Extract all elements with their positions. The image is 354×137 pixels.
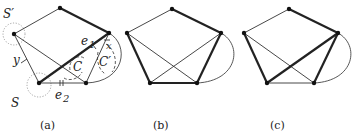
edge-curved	[314, 33, 351, 83]
label-s: S	[11, 96, 19, 110]
vertex-bottom-right	[312, 81, 316, 85]
edge-left-bottomleft	[244, 33, 267, 83]
edge-left-top	[14, 8, 60, 34]
vertex-bottom-left	[148, 81, 152, 85]
vertex-left	[125, 31, 129, 35]
caption-c: (c)	[270, 119, 285, 132]
caption-b: (b)	[153, 119, 169, 132]
caption-a: (a)	[40, 119, 55, 132]
edge-left-top	[244, 9, 289, 33]
vertex-bottom-right	[84, 81, 88, 85]
vertex-left	[242, 31, 246, 35]
label-y: y	[12, 53, 20, 67]
label-s-prime: S′	[3, 7, 14, 21]
edge-curved	[197, 33, 234, 83]
label-e1-sub: 1	[89, 39, 95, 50]
edge-top-right	[60, 8, 109, 33]
vertex-top	[58, 6, 62, 10]
label-x: x	[106, 40, 112, 51]
vertex-right	[219, 31, 223, 35]
edge-top-right	[172, 9, 221, 33]
edge-right-bottomright	[197, 33, 221, 83]
vertex-bottom-left	[265, 81, 269, 85]
label-e2-sub: 2	[62, 93, 69, 104]
vertex-right	[336, 31, 340, 35]
label-c-prime: C′	[99, 55, 111, 69]
vertex-left	[12, 32, 16, 36]
edge-top-right	[289, 9, 338, 33]
panel-c: (c)	[242, 7, 351, 132]
vertex-right	[107, 31, 111, 35]
panel-b: (b)	[125, 7, 234, 132]
edge-left-top	[127, 9, 172, 33]
panel-a: S′ S y x e 1 e 2 C C′ (a)	[3, 6, 121, 132]
label-e1: e	[81, 34, 88, 48]
tick-y	[21, 59, 27, 63]
vertex-bottom-left	[37, 81, 41, 85]
edge-right-bottomleft	[267, 33, 338, 83]
vertex-bottom-right	[195, 81, 199, 85]
edge-left-bottomleft	[127, 33, 150, 83]
figure-canvas: S′ S y x e 1 e 2 C C′ (a) (b)	[0, 0, 354, 137]
edge-right-bottomleft	[150, 33, 221, 83]
vertex-top	[287, 7, 291, 11]
label-c: C	[73, 60, 82, 74]
vertex-top	[170, 7, 174, 11]
label-e2: e	[55, 88, 62, 102]
